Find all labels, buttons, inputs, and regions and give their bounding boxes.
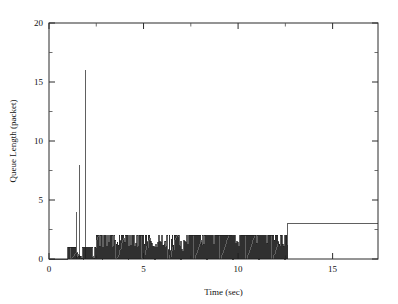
x-axis-title: Time (sec) (204, 287, 242, 297)
queue-length-chart: 05101505101520 Time (sec) Queue Length (… (0, 0, 398, 304)
y-tick-label: 10 (34, 136, 44, 146)
queue-spike-markers (76, 70, 85, 259)
y-tick-label: 5 (39, 195, 44, 205)
y-tick-label: 20 (34, 18, 44, 28)
y-axis-title: Queue Length (packet) (8, 100, 18, 183)
queue-length-trace (49, 224, 378, 259)
x-tick-label: 0 (47, 264, 52, 274)
data-series-layer (49, 70, 378, 259)
x-tick-label: 10 (234, 264, 244, 274)
x-tick-label: 5 (141, 264, 146, 274)
y-tick-label: 15 (34, 77, 44, 87)
chart-canvas: 05101505101520 Time (sec) Queue Length (… (0, 0, 398, 304)
y-tick-label: 0 (39, 254, 44, 264)
x-tick-label: 15 (328, 264, 338, 274)
